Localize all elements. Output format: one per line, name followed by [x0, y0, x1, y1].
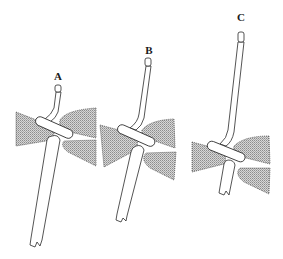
panel-b [100, 58, 176, 222]
panel-b-right-lower-tissue [144, 152, 176, 180]
panel-c [192, 32, 270, 195]
panel-b-upper-stem [130, 66, 151, 130]
panel-c-cap [238, 32, 244, 42]
panel-a [16, 85, 96, 247]
panel-b-label: B [145, 45, 152, 56]
diagram-figure: A B C [0, 0, 283, 259]
panel-a-label: A [54, 71, 62, 82]
panel-c-upper-stem [220, 42, 244, 146]
panel-c-label: C [237, 12, 245, 23]
panel-a-cap [55, 85, 61, 92]
panel-a-upper-stem [44, 92, 61, 122]
panel-b-cap [145, 58, 151, 66]
panel-a-right-lower-tissue [63, 140, 96, 166]
diagram-canvas [0, 0, 283, 259]
panel-c-lower-tube [219, 160, 235, 195]
panel-c-right-lower-tissue [238, 168, 270, 194]
panel-a-lower-tube [30, 136, 60, 248]
